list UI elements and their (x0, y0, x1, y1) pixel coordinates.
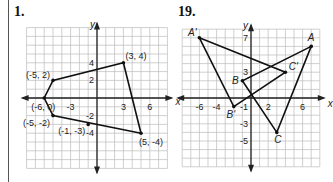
y-tick-label: -1 (240, 102, 248, 112)
arrow-right-icon (318, 95, 326, 101)
vertex-label: C' (289, 61, 299, 72)
x-tick-label: -6 (195, 102, 203, 112)
vertex-label: A' (187, 27, 198, 38)
vertex-point (241, 79, 245, 83)
vertex-label: B (232, 75, 239, 86)
vertex-point (309, 45, 313, 49)
x-tick-label: 6 (300, 102, 305, 112)
y-tick-label: -3 (240, 119, 248, 129)
vertex-label: A (307, 32, 315, 43)
y-axis-label: y (242, 20, 249, 31)
arrow-up-icon (248, 23, 254, 31)
vertex-label: B' (227, 109, 237, 120)
arrow-left-icon (176, 95, 184, 101)
arrow-down-icon (248, 165, 254, 173)
vertex-label: C (274, 134, 282, 145)
graph-problem-19: xy-6-42673-1-3-5ABCA'B'C' (0, 0, 333, 182)
y-tick-label: 7 (243, 33, 248, 43)
vertex-point (198, 36, 202, 40)
x-tick-label: 2 (266, 102, 271, 112)
y-tick-label: 3 (243, 67, 248, 77)
y-tick-label: -5 (240, 136, 248, 146)
x-tick-label: -4 (213, 102, 221, 112)
x-axis-label: x (327, 98, 333, 109)
vertex-point (284, 70, 288, 74)
